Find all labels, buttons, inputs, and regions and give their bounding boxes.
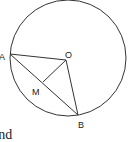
label-o: O: [65, 50, 72, 60]
chord-ab: [10, 54, 78, 115]
segment-om: [43, 60, 66, 82]
label-b: B: [78, 120, 84, 130]
segment-ao: [10, 54, 66, 60]
label-a: A: [0, 52, 5, 62]
segment-ob: [66, 60, 78, 115]
label-m: M: [32, 87, 40, 97]
geometry-diagram: A O M B: [0, 0, 131, 142]
caption-fragment: and: [0, 128, 12, 142]
